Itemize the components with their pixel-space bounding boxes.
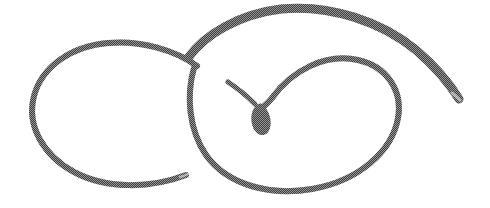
drawing-canvas <box>0 0 490 208</box>
line-art-illustration <box>0 0 490 208</box>
canvas-background <box>0 0 490 208</box>
